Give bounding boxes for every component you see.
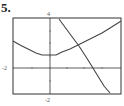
graph-window [0, 0, 124, 106]
line-series [59, 19, 110, 93]
y-max-label: 4 [47, 11, 50, 17]
curve-series [13, 21, 121, 55]
y-min-label: -2 [45, 97, 50, 103]
x-min-label: -2 [2, 65, 7, 71]
